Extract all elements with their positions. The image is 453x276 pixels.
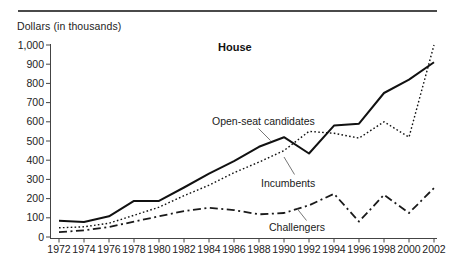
x-tick-label: 1974 xyxy=(72,243,96,255)
y-tick-label: 800 xyxy=(26,77,44,89)
x-tick-label: 1984 xyxy=(197,243,221,255)
challengers-label: Challengers xyxy=(269,221,325,233)
x-tick-label: 2002 xyxy=(422,243,446,255)
challengers-leader-line xyxy=(297,209,307,221)
y-tick-label: 0 xyxy=(38,231,44,243)
house-campaign-spending-figure: Dollars (in thousands) House 01002003004… xyxy=(0,0,453,276)
x-tick-label: 2000 xyxy=(397,243,421,255)
y-tick-label: 300 xyxy=(26,173,44,185)
open-seat-candidates-leader-line xyxy=(259,129,271,141)
y-tick-label: 500 xyxy=(26,135,44,147)
incumbents-label: Incumbents xyxy=(261,177,315,189)
y-tick-label: 700 xyxy=(26,96,44,108)
open-seat-candidates-line xyxy=(59,62,434,222)
x-tick-label: 1998 xyxy=(372,243,396,255)
x-tick-label: 1990 xyxy=(272,243,296,255)
x-tick-label: 1982 xyxy=(172,243,196,255)
y-tick-label: 1,000 xyxy=(18,39,44,51)
x-tick-label: 1994 xyxy=(322,243,346,255)
y-tick-label: 600 xyxy=(26,115,44,127)
challengers-line xyxy=(59,188,434,232)
y-tick-label: 400 xyxy=(26,154,44,166)
x-tick-label: 1992 xyxy=(297,243,321,255)
y-tick-label: 900 xyxy=(26,58,44,70)
x-tick-label: 1986 xyxy=(222,243,246,255)
plot-area: 01002003004005006007008009001,0001972197… xyxy=(0,0,453,276)
x-tick-label: 1978 xyxy=(122,243,146,255)
x-tick-label: 1976 xyxy=(97,243,121,255)
x-tick-label: 1996 xyxy=(347,243,371,255)
x-tick-label: 1972 xyxy=(47,243,71,255)
open-seat-candidates-label: Open-seat candidates xyxy=(212,115,315,127)
y-tick-label: 200 xyxy=(26,192,44,204)
y-tick-label: 100 xyxy=(26,211,44,223)
x-tick-label: 1988 xyxy=(247,243,271,255)
x-tick-label: 1980 xyxy=(147,243,171,255)
incumbents-leader-line xyxy=(284,157,295,175)
